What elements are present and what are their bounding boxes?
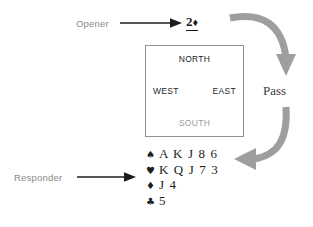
hand-row: ♣ 5 <box>146 193 276 209</box>
right-arrow-icon <box>120 17 186 29</box>
compass-label-north: NORTH <box>146 54 243 64</box>
compass-label-south: SOUTH <box>146 118 243 128</box>
compass-box: NORTH WEST EAST SOUTH <box>145 45 244 137</box>
heart-suit-icon: ♥ <box>146 163 159 179</box>
compass-label-east: EAST <box>213 86 236 96</box>
diamond-suit-icon: ♦ <box>193 16 199 28</box>
hand-cards-diamonds: J 4 <box>159 177 177 193</box>
opening-bid: 2♦ <box>186 15 198 31</box>
spade-suit-icon: ♠ <box>146 147 159 163</box>
hand-row: ♥ K Q J 7 3 <box>146 162 276 178</box>
hand-cards-clubs: 5 <box>159 193 167 209</box>
responder-label: Responder <box>14 172 62 183</box>
hand-cards-spades: A K J 8 6 <box>159 146 218 162</box>
compass-label-west: WEST <box>153 86 179 96</box>
opener-label: Opener <box>76 18 109 29</box>
pass-label: Pass <box>263 83 286 99</box>
hand-cards-hearts: K Q J 7 3 <box>159 162 219 178</box>
diamond-suit-icon: ♦ <box>146 178 159 194</box>
bridge-bidding-diagram: Opener 2♦ NORTH WEST EAST SOUTH Pass Res… <box>0 0 313 227</box>
right-arrow-icon <box>77 171 139 183</box>
responder-hand: ♠ A K J 8 6 ♥ K Q J 7 3 ♦ J 4 ♣ 5 <box>146 146 276 208</box>
hand-row: ♠ A K J 8 6 <box>146 146 276 162</box>
club-suit-icon: ♣ <box>146 194 159 210</box>
hand-row: ♦ J 4 <box>146 177 276 193</box>
